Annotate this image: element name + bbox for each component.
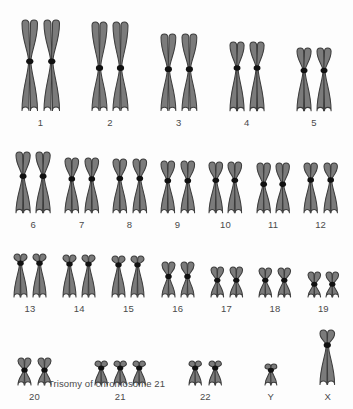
row-1: 12345 bbox=[20, 18, 333, 128]
centromere bbox=[116, 262, 122, 267]
chromosome bbox=[207, 160, 225, 218]
chromatid-right bbox=[215, 162, 222, 213]
chromatid-left bbox=[112, 256, 119, 297]
centromere bbox=[212, 178, 219, 183]
chromatid-right bbox=[120, 159, 127, 213]
centromere bbox=[281, 278, 287, 283]
chromatid-right bbox=[324, 48, 331, 111]
chromosome bbox=[209, 265, 226, 302]
chromosome-label-5: 5 bbox=[311, 118, 316, 128]
chromatid-right bbox=[43, 152, 50, 213]
chromosome bbox=[110, 254, 127, 302]
chromatid-right bbox=[167, 161, 174, 213]
chromosome bbox=[63, 156, 81, 218]
centromere bbox=[324, 342, 331, 348]
centromere bbox=[164, 178, 171, 183]
chromosome-label-18: 18 bbox=[269, 304, 280, 314]
centromere bbox=[88, 176, 95, 181]
chromosome bbox=[302, 161, 319, 218]
chromatid-right bbox=[235, 162, 242, 213]
chromatid-right bbox=[91, 158, 98, 213]
centromere bbox=[260, 182, 267, 187]
figure-caption: Trisomy of chromosome 21 bbox=[0, 378, 353, 389]
chromosome bbox=[159, 159, 177, 218]
centromere bbox=[327, 177, 334, 182]
centromere bbox=[214, 278, 220, 283]
chromosome bbox=[276, 266, 293, 302]
chromosome-label-1: 1 bbox=[38, 118, 43, 128]
chromosome-label-8: 8 bbox=[127, 220, 132, 230]
chromatid-right bbox=[20, 254, 27, 297]
centromere bbox=[67, 261, 73, 266]
chromosome-label-7: 7 bbox=[79, 220, 84, 230]
chromatid-left bbox=[228, 162, 235, 213]
chromatid-right bbox=[168, 262, 175, 297]
chromosome bbox=[228, 265, 245, 302]
chromosome-label-16: 16 bbox=[172, 304, 183, 314]
chromosome-group-14: 14 bbox=[61, 253, 97, 314]
chromosome-copies bbox=[20, 18, 61, 116]
chromosome-group-13: 13 bbox=[12, 252, 48, 314]
centromere bbox=[253, 65, 260, 71]
chromosome-group-4: 4 bbox=[228, 40, 266, 128]
chromatid-left bbox=[33, 254, 40, 297]
chromatid-right bbox=[263, 163, 270, 213]
row-2: 6789101112 bbox=[14, 150, 339, 230]
chromatid-left bbox=[182, 34, 190, 111]
centromere bbox=[330, 282, 336, 287]
chromosome bbox=[179, 159, 197, 218]
chromosome-copies bbox=[207, 160, 244, 218]
chromatid-left bbox=[161, 34, 169, 111]
chromosome-group-7: 7 bbox=[63, 156, 100, 230]
chromatid-right bbox=[311, 163, 318, 213]
centromere bbox=[48, 58, 55, 64]
chromatid-right bbox=[69, 255, 76, 297]
row-4: 202122YX bbox=[16, 328, 337, 402]
chromosome bbox=[306, 270, 323, 302]
chromosome bbox=[226, 160, 244, 218]
chromosome bbox=[14, 150, 32, 218]
chromosome bbox=[111, 157, 129, 218]
chromatid-left bbox=[113, 159, 120, 213]
chromatid-left bbox=[276, 163, 283, 213]
chromosome bbox=[255, 161, 272, 218]
chromatid-right bbox=[168, 34, 176, 111]
chromosome-label-3: 3 bbox=[176, 118, 181, 128]
centromere bbox=[165, 66, 172, 72]
chromosome-copies bbox=[306, 270, 341, 302]
chromosome bbox=[257, 266, 274, 302]
centromere bbox=[21, 367, 27, 372]
chromosome-group-3: 3 bbox=[159, 32, 199, 128]
chromatid-left bbox=[161, 161, 168, 213]
chromosome bbox=[83, 156, 101, 218]
chromatid-left bbox=[250, 42, 257, 111]
centromere bbox=[69, 176, 76, 181]
centromere bbox=[186, 66, 193, 72]
chromosome-label-X: X bbox=[324, 392, 331, 402]
centromere bbox=[98, 366, 104, 371]
chromosome-copies bbox=[160, 260, 196, 302]
chromosome-group-8: 8 bbox=[111, 157, 148, 230]
chromatid-left bbox=[36, 152, 43, 213]
chromosome-label-6: 6 bbox=[30, 220, 35, 230]
chromosome bbox=[42, 18, 62, 116]
chromatid-right bbox=[139, 159, 146, 213]
chromosome-label-17: 17 bbox=[221, 304, 232, 314]
chromosome-label-2: 2 bbox=[107, 118, 112, 128]
chromosome-label-15: 15 bbox=[123, 304, 134, 314]
centromere bbox=[136, 176, 143, 181]
chromatid-right bbox=[72, 158, 79, 213]
centromere bbox=[232, 178, 239, 183]
chromosome-label-21: 21 bbox=[115, 392, 126, 402]
chromosome-copies bbox=[12, 252, 48, 302]
chromosome-group-5: 5 bbox=[295, 46, 333, 128]
chromosome-group-1: 1 bbox=[20, 18, 61, 128]
chromosome bbox=[12, 252, 29, 302]
chromatid-right bbox=[138, 256, 145, 297]
centromere bbox=[311, 282, 317, 287]
chromosome-group-9: 9 bbox=[159, 159, 196, 230]
centromere bbox=[279, 182, 286, 187]
chromatid-left bbox=[162, 262, 169, 297]
centromere bbox=[184, 178, 191, 183]
chromosome-label-20: 20 bbox=[29, 392, 40, 402]
